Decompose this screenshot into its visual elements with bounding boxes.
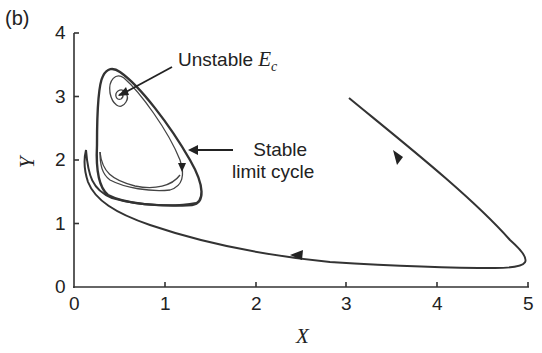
x-tick-2: 2 [251, 294, 262, 313]
stable-limit-cycle [97, 69, 202, 206]
x-tick-0: 0 [69, 294, 80, 313]
direction-arrow-upper-right [393, 150, 403, 165]
y-tick-1: 1 [55, 214, 66, 233]
x-axis-title: X [296, 324, 309, 349]
x-tick-3: 3 [341, 294, 352, 313]
y-axis-title: Y [15, 157, 40, 169]
x-tick-1: 1 [160, 294, 171, 313]
y-tick-0: 0 [55, 277, 66, 296]
phase-portrait-figure: (b) [0, 0, 542, 353]
unstable-pointer-head [118, 87, 129, 96]
direction-arrow-inner [178, 163, 186, 172]
stable-pointer-head [188, 145, 198, 155]
y-tick-4: 4 [55, 23, 66, 42]
y-tick-2: 2 [55, 150, 66, 169]
x-tick-5: 5 [523, 294, 534, 313]
stable-limit-cycle-label: Stable limit cycle [246, 139, 314, 183]
x-tick-4: 4 [432, 294, 443, 313]
inner-trajectory-tail [100, 152, 180, 188]
unstable-equilibrium-label: Unstable Ec [178, 49, 277, 74]
outer-trajectory [85, 98, 526, 268]
y-tick-3: 3 [55, 87, 66, 106]
